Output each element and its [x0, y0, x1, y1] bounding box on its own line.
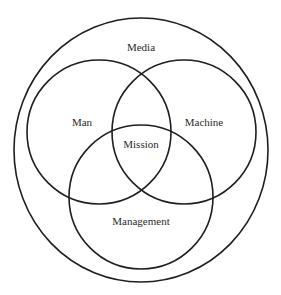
man-circle	[27, 60, 171, 204]
machine-label: Machine	[185, 116, 224, 128]
machine-circle	[112, 60, 256, 204]
mission-label: Mission	[123, 138, 159, 150]
man-label: Man	[72, 116, 93, 128]
media-outer-circle	[14, 18, 268, 282]
management-label: Management	[112, 215, 169, 227]
venn-diagram: Media Man Machine Mission Management	[0, 0, 281, 295]
media-label: Media	[127, 41, 155, 53]
